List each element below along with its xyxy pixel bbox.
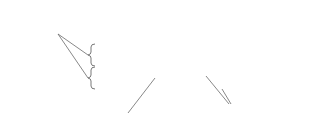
plane-leader: [128, 78, 155, 113]
crystal-lattice-diagram: [0, 0, 319, 136]
spacing-brace-lower: [88, 67, 95, 89]
leader-lines: [58, 34, 231, 113]
spacing-leader-lower: [58, 34, 88, 78]
spacing-leader-upper: [58, 34, 88, 55]
centres-leader-1: [206, 76, 229, 104]
spacing-brace-upper: [88, 44, 95, 66]
spacing-braces: [88, 44, 95, 89]
